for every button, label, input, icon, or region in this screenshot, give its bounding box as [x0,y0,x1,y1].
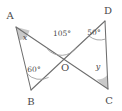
angle-label-60: 60° [27,66,40,74]
vertex-label-A: A [6,11,13,21]
vertex-label-B: B [27,97,34,107]
angle-label-y: y [96,63,101,71]
angle-label-x: x [23,34,28,42]
vertex-label-O: O [61,63,69,73]
angle-label-50: 50° [87,29,100,37]
vertex-label-D: D [104,6,112,16]
geometry-diagram: A B C D O x 60° 105° 50° y [0,0,122,111]
angle-label-105: 105° [53,30,71,38]
vertex-label-C: C [105,96,113,106]
diagram-canvas [0,0,122,111]
